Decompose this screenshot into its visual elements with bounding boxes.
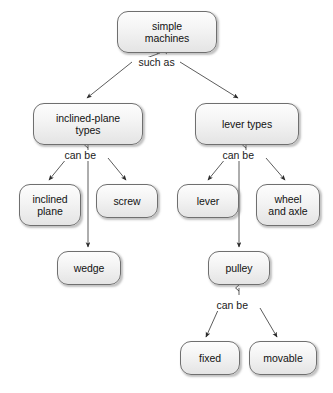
node-wedge[interactable]: wedge: [57, 251, 121, 285]
node-label-simple-machines: simple machines: [142, 20, 193, 44]
node-wheel-and-axle[interactable]: wheel and axle: [256, 184, 320, 226]
node-simple-machines[interactable]: simple machines: [117, 11, 217, 53]
edge-label-can-be-pulley: can be: [215, 300, 250, 311]
edge-pulley-to-fixed: [206, 308, 219, 337]
edge-ipt-to-inclined-plane: [49, 158, 67, 180]
node-movable[interactable]: movable: [249, 341, 317, 375]
node-label-screw: screw: [110, 195, 143, 207]
node-fixed[interactable]: fixed: [180, 341, 240, 375]
node-label-wheel-and-axle: wheel and axle: [265, 193, 310, 217]
edge-ipt-to-screw: [108, 158, 126, 180]
edge-pulley-to-movable: [260, 308, 277, 337]
node-label-movable: movable: [260, 352, 305, 364]
edge-label-can-be-left: can be: [63, 150, 98, 161]
node-label-inclined-plane: inclined plane: [29, 193, 70, 217]
node-label-inclined-plane-types: inclined-plane types: [53, 112, 123, 136]
node-label-lever: lever: [194, 195, 223, 207]
edge-lt-to-wheel-and-axle: [266, 158, 285, 180]
node-inclined-plane[interactable]: inclined plane: [19, 184, 81, 226]
node-label-lever-types: lever types: [219, 118, 275, 130]
node-lever[interactable]: lever: [177, 184, 239, 218]
node-label-wedge: wedge: [71, 262, 108, 274]
node-inclined-plane-types[interactable]: inclined-plane types: [33, 103, 143, 145]
node-label-pulley: pulley: [222, 262, 255, 274]
edge-label-such-as-root: such as: [137, 57, 176, 68]
edge-root-to-lever-types: [180, 62, 238, 98]
node-pulley[interactable]: pulley: [208, 251, 270, 285]
edge-label-can-be-right: can be: [221, 150, 256, 161]
node-screw[interactable]: screw: [96, 184, 158, 218]
node-label-fixed: fixed: [196, 352, 224, 364]
node-lever-types[interactable]: lever types: [195, 103, 299, 145]
edge-lt-to-lever: [208, 158, 226, 180]
concept-map: simple machines inclined-plane types lev…: [0, 0, 333, 393]
